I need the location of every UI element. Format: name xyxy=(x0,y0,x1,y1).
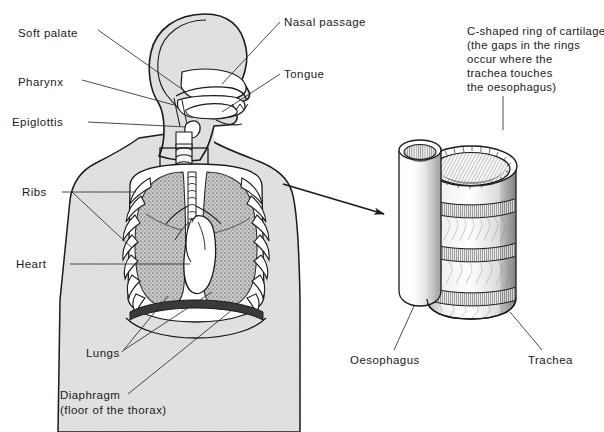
caption-line-5: the oesophagus) xyxy=(467,81,556,93)
label-pharynx: Pharynx xyxy=(18,76,63,88)
label-tongue: Tongue xyxy=(284,68,324,80)
caption-line-4: trachea touches xyxy=(467,67,553,79)
leader-oesophagus xyxy=(394,306,414,350)
oesophagus-body xyxy=(399,149,441,306)
caption-line-1: C-shaped ring of cartilage xyxy=(467,25,604,37)
human-figure xyxy=(58,14,300,432)
diagram-canvas: Soft palate Pharynx Epiglottis Ribs Hear… xyxy=(0,0,604,432)
trachea-rim-inner xyxy=(432,153,510,186)
label-lungs: Lungs xyxy=(86,347,120,359)
thorax xyxy=(123,164,269,338)
label-diaphragm: Diaphragm xyxy=(60,389,120,401)
label-nasal-passage: Nasal passage xyxy=(284,16,366,28)
caption-line-3: occur where the xyxy=(467,53,553,65)
trachea-detail xyxy=(399,140,526,320)
label-epiglottis: Epiglottis xyxy=(12,116,63,128)
cartilage-caption: C-shaped ring of cartilage (the gaps in … xyxy=(467,25,604,93)
label-soft-palate: Soft palate xyxy=(18,27,78,39)
respiratory-system-diagram: Soft palate Pharynx Epiglottis Ribs Hear… xyxy=(0,0,604,432)
leader-trachea xyxy=(510,312,542,350)
label-diaphragm-subtitle: (floor of the thorax) xyxy=(60,404,167,416)
label-trachea: Trachea xyxy=(528,354,573,366)
label-ribs: Ribs xyxy=(22,186,47,198)
callout-arrow xyxy=(283,184,384,214)
label-oesophagus: Oesophagus xyxy=(350,354,420,366)
label-heart: Heart xyxy=(16,258,47,270)
caption-line-2: (the gaps in the rings xyxy=(467,39,580,51)
